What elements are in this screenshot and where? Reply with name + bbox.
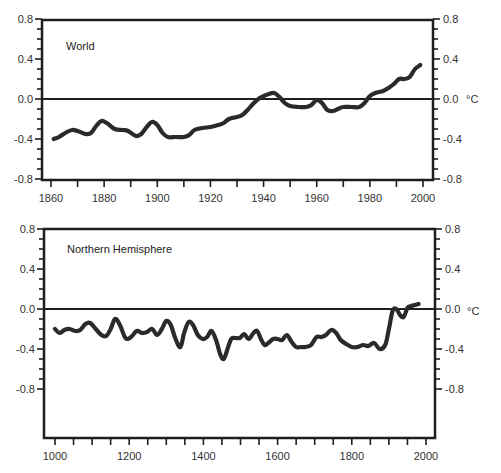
x-tick-label: 1940 <box>251 192 275 204</box>
x-tick-label: 1920 <box>198 192 222 204</box>
nh-left-y-tick-labels: 0.80.40.0-0.4-0.8 <box>16 223 35 395</box>
world-unit-label: °C <box>466 93 478 105</box>
x-tick-label: 2000 <box>414 450 438 462</box>
x-tick-label: 1960 <box>304 192 328 204</box>
y-tick-label-left: -0.4 <box>16 343 35 355</box>
x-tick-label: 1880 <box>92 192 116 204</box>
nh-unit-label: °C <box>467 305 479 317</box>
nh-x-ticks <box>55 438 426 445</box>
temperature-charts: 0.80.40.0-0.4-0.8 0.80.40.0-0.4-0.8 1860… <box>0 0 501 473</box>
y-tick-label-right: 0.4 <box>445 263 460 275</box>
y-tick-label-left: 0.4 <box>20 263 35 275</box>
world-panel: 0.80.40.0-0.4-0.8 0.80.40.0-0.4-0.8 1860… <box>14 13 478 204</box>
x-tick-label: 1800 <box>340 450 364 462</box>
y-tick-label-right: -0.8 <box>445 383 464 395</box>
x-tick-label: 1200 <box>117 450 141 462</box>
y-tick-label-left: 0.4 <box>18 53 33 65</box>
x-tick-label: 1980 <box>358 192 382 204</box>
y-tick-label-right: -0.4 <box>445 343 464 355</box>
world-panel-title: World <box>66 40 95 52</box>
world-x-tick-labels: 18601880190019201940196019802000 <box>39 192 435 204</box>
y-tick-label-right: 0.8 <box>445 223 460 235</box>
y-tick-label-left: 0.0 <box>20 303 35 315</box>
y-tick-label-left: 0.8 <box>18 13 33 25</box>
x-tick-label: 1400 <box>191 450 215 462</box>
x-tick-label: 2000 <box>411 192 435 204</box>
y-tick-label-left: 0.0 <box>18 93 33 105</box>
world-left-y-tick-labels: 0.80.40.0-0.4-0.8 <box>14 13 33 185</box>
y-tick-label-right: -0.4 <box>443 133 462 145</box>
nh-right-y-tick-labels: 0.80.40.0-0.4-0.8 <box>445 223 464 395</box>
y-tick-label-left: -0.8 <box>16 383 35 395</box>
y-tick-label-right: -0.8 <box>443 173 462 185</box>
y-tick-label-left: -0.8 <box>14 173 33 185</box>
y-tick-label-right: 0.4 <box>443 53 458 65</box>
x-tick-label: 1000 <box>43 450 67 462</box>
y-tick-label-right: 0.0 <box>443 93 458 105</box>
world-right-y-tick-labels: 0.80.40.0-0.4-0.8 <box>443 13 462 185</box>
y-tick-label-right: 0.0 <box>445 303 460 315</box>
northern-hemisphere-panel: 0.80.40.0-0.4-0.8 0.80.40.0-0.4-0.8 1000… <box>16 223 479 462</box>
y-tick-label-left: -0.4 <box>14 133 33 145</box>
nh-x-tick-labels: 100012001400160018002000 <box>43 450 438 462</box>
y-tick-label-right: 0.8 <box>443 13 458 25</box>
nh-temperature-line <box>55 304 419 359</box>
world-temperature-line <box>54 65 421 139</box>
x-tick-label: 1600 <box>265 450 289 462</box>
chart-stage: 0.80.40.0-0.4-0.8 0.80.40.0-0.4-0.8 1860… <box>0 0 501 473</box>
x-tick-label: 1900 <box>145 192 169 204</box>
nh-panel-title: Northern Hemisphere <box>67 243 172 255</box>
y-tick-label-left: 0.8 <box>20 223 35 235</box>
x-tick-label: 1860 <box>39 192 63 204</box>
